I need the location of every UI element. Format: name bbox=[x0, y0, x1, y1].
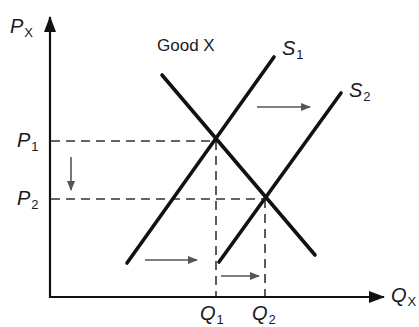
s1-symbol: S bbox=[282, 37, 295, 59]
p2-symbol: P bbox=[17, 187, 30, 209]
y-axis-label: PX bbox=[10, 16, 33, 36]
x-axis-subscript: X bbox=[408, 294, 417, 309]
s2-subscript: 2 bbox=[363, 89, 370, 104]
p1-symbol: P bbox=[17, 129, 30, 151]
p1-subscript: 1 bbox=[31, 139, 38, 154]
p2-subscript: 2 bbox=[31, 197, 38, 212]
s1-subscript: 1 bbox=[296, 47, 303, 62]
diagram-title: Good X bbox=[157, 37, 215, 54]
s2-symbol: S bbox=[349, 79, 362, 101]
supply-curve-s2 bbox=[219, 93, 341, 262]
p2-label: P2 bbox=[17, 188, 39, 208]
s1-label: S1 bbox=[282, 38, 304, 58]
s2-label: S2 bbox=[349, 80, 371, 100]
demand-curve bbox=[162, 75, 315, 255]
y-axis-symbol: P bbox=[10, 15, 23, 37]
q2-label: Q2 bbox=[252, 303, 276, 323]
supply-curve-s1 bbox=[127, 57, 274, 263]
p1-label: P1 bbox=[17, 130, 39, 150]
y-axis-subscript: X bbox=[24, 25, 33, 40]
x-axis-symbol: Q bbox=[391, 284, 407, 306]
q2-symbol: Q bbox=[252, 302, 268, 324]
q2-subscript: 2 bbox=[269, 312, 276, 327]
q1-symbol: Q bbox=[200, 302, 216, 324]
q1-label: Q1 bbox=[200, 303, 224, 323]
x-axis-label: QX bbox=[391, 285, 416, 305]
q1-subscript: 1 bbox=[217, 312, 224, 327]
